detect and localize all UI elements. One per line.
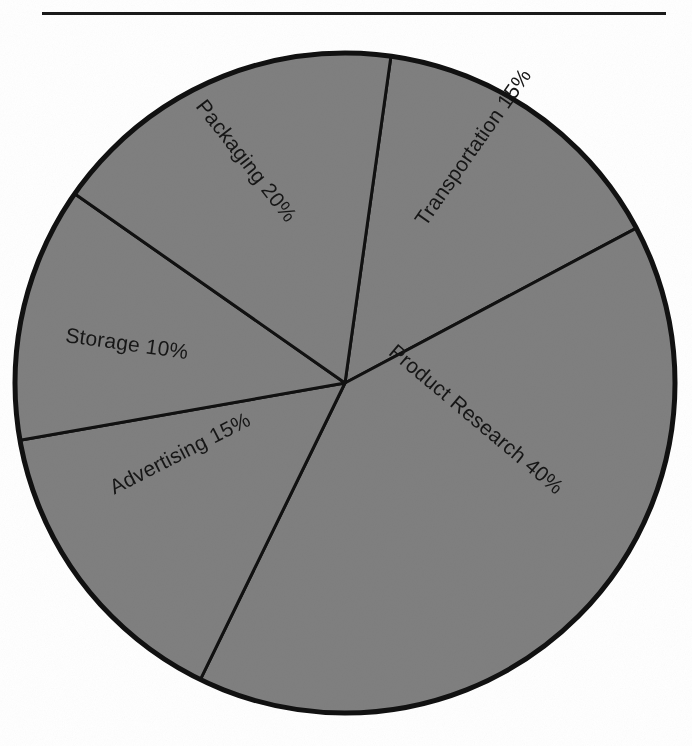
pie-chart-svg [0, 0, 692, 746]
pie-chart-figure: Transportation 15%Product Research 40%Ad… [0, 0, 692, 746]
pie-slices-group [15, 53, 675, 713]
page-canvas: Transportation 15%Product Research 40%Ad… [0, 0, 692, 746]
